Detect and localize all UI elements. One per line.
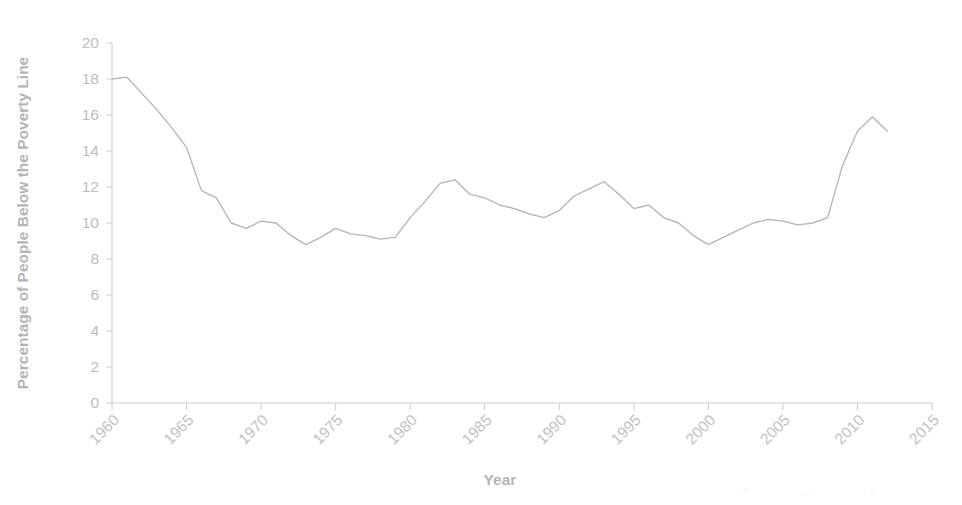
y-tick-label: 20 (82, 34, 100, 51)
y-tick-group: 02468101214161820 (82, 34, 112, 411)
x-tick-group: 1960196519701975198019851990199520002005… (86, 403, 942, 448)
x-tick-label: 1970 (235, 411, 272, 448)
poverty-rate-line (112, 77, 887, 244)
x-tick-label: 1965 (160, 411, 196, 447)
x-tick-label: 1985 (458, 411, 494, 447)
line-chart-plot: 02468101214161820 1960196519701975198019… (0, 0, 962, 505)
x-axis-title: Year (484, 471, 517, 488)
y-tick-label: 14 (82, 142, 100, 159)
y-tick-label: 8 (90, 250, 99, 267)
y-tick-label: 16 (82, 106, 99, 123)
y-tick-label: 0 (90, 394, 99, 411)
x-tick-label: 1995 (608, 411, 644, 447)
chart-container: 02468101214161820 1960196519701975198019… (0, 0, 962, 505)
y-axis-title: Percentage of People Below the Poverty L… (14, 56, 31, 389)
x-tick-label: 2000 (682, 411, 719, 448)
y-tick-label: 6 (90, 286, 99, 303)
x-tick-label: 1975 (309, 411, 345, 447)
x-tick-label: 2005 (757, 411, 793, 447)
x-tick-label: 1990 (533, 411, 570, 448)
x-tick-label: 1960 (86, 411, 123, 448)
y-tick-label: 4 (90, 322, 99, 339)
y-tick-label: 18 (82, 70, 99, 87)
y-tick-label: 2 (90, 358, 99, 375)
x-tick-label: 1980 (384, 411, 421, 448)
x-tick-label: 2010 (831, 411, 868, 448)
y-tick-label: 12 (82, 178, 99, 195)
x-tick-label: 2015 (906, 411, 942, 447)
y-tick-label: 10 (82, 214, 100, 231)
